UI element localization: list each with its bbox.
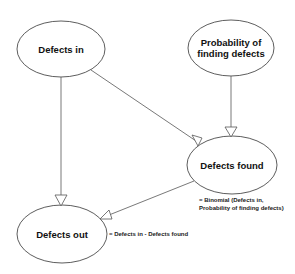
formula-line: = Binomial (Defects in, bbox=[199, 196, 284, 204]
edge-defects-in-to-defects-found bbox=[91, 70, 199, 143]
edge-defects-found-to-defects-out bbox=[104, 181, 194, 217]
label-defects-found: Defects found bbox=[187, 156, 277, 174]
arrowhead-icon bbox=[100, 210, 112, 219]
label-probability: Probability of finding defects bbox=[192, 35, 270, 61]
arrowhead-icon bbox=[55, 195, 67, 206]
formula-line: Probability of finding defects) bbox=[199, 204, 284, 212]
label-defects-in: Defects in bbox=[17, 40, 105, 58]
arrowhead-icon bbox=[225, 127, 237, 137]
label-defects-out: Defects out bbox=[17, 225, 107, 243]
formula-defects-found: = Binomial (Defects in, Probability of f… bbox=[199, 196, 284, 212]
formula-defects-out: = Defects in - Defects found bbox=[109, 230, 188, 238]
